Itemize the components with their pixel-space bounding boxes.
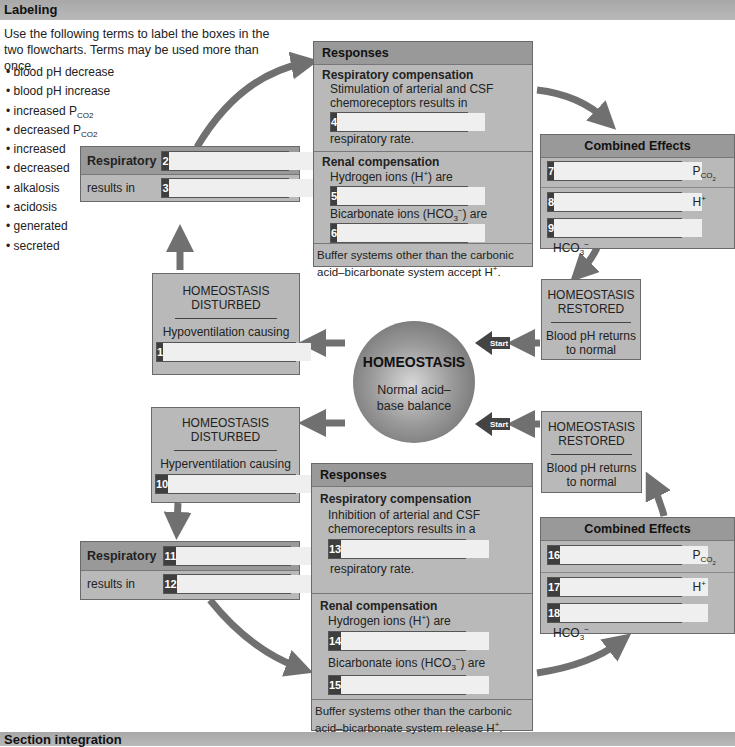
answer-field-10[interactable]: 10 [155,474,296,494]
top-responses-box: Responses Respiratory compensation Stimu… [313,41,533,267]
arrow-icon [652,484,664,516]
buffer-note: Buffer systems other than the carbonic a… [314,244,532,283]
answer-field-11[interactable]: 11 [163,546,291,566]
buffer-note: Buffer systems other than the carbonic a… [312,700,532,739]
answer-field-5[interactable]: 5 [330,186,468,206]
top-combined-effects-box: Combined Effects 7 PCO2 8 H+ 9 HCO3− [540,134,735,249]
bottom-respiratory-box: Respiratory 11 results in 12 [80,541,300,600]
answer-field-1[interactable]: 1 [156,342,296,362]
answer-field-4[interactable]: 4 [330,112,468,132]
answer-field-18[interactable]: 18 [547,603,682,623]
homeostasis-center: HOMEOSTASIS Normal acid–base balance [353,321,475,443]
answer-field-3[interactable]: 3 [161,178,289,198]
arrow-icon [210,600,300,668]
respiratory-label: Respiratory [87,154,157,168]
answer-field-8[interactable]: 8 [547,192,682,212]
answer-field-17[interactable]: 17 [547,577,682,597]
arrow-icon [537,90,606,120]
bottom-responses-box: Responses Respiratory compensation Inhib… [311,463,533,731]
start-label-top: Start [490,339,509,348]
results-in-label: results in [87,181,157,195]
answer-field-6[interactable]: 6 [330,223,468,243]
divider [175,318,277,319]
bottom-homeostasis-restored-box: HOMEOSTASIS RESTORED Blood pH returns to… [541,411,642,493]
answer-field-9[interactable]: 9 [547,218,682,238]
responses-header: Responses [314,42,532,65]
answer-field-14[interactable]: 14 [328,631,466,651]
top-homeostasis-disturbed-box: HOMEOSTASIS DISTURBED Hypoventilation ca… [152,273,300,375]
arrow-icon [197,63,305,147]
arrow-icon [537,642,620,673]
start-label-bottom: Start [490,420,509,429]
arrow-icon [177,503,178,526]
bottom-homeostasis-disturbed-box: HOMEOSTASIS DISTURBED Hyperventilation c… [151,407,300,503]
bottom-combined-effects-box: Combined Effects 16 PCO2 17 H+ 18 HCO3− [540,517,735,634]
answer-field-7[interactable]: 7 [547,161,682,181]
top-respiratory-box: Respiratory 2 results in 3 [80,146,300,202]
top-homeostasis-restored-box: HOMEOSTASIS RESTORED Blood pH returns to… [541,279,641,360]
answer-field-16[interactable]: 16 [547,545,682,565]
answer-field-13[interactable]: 13 [328,539,466,559]
answer-field-15[interactable]: 15 [328,675,466,695]
answer-field-12[interactable]: 12 [163,574,291,594]
answer-field-2[interactable]: 2 [161,151,289,171]
